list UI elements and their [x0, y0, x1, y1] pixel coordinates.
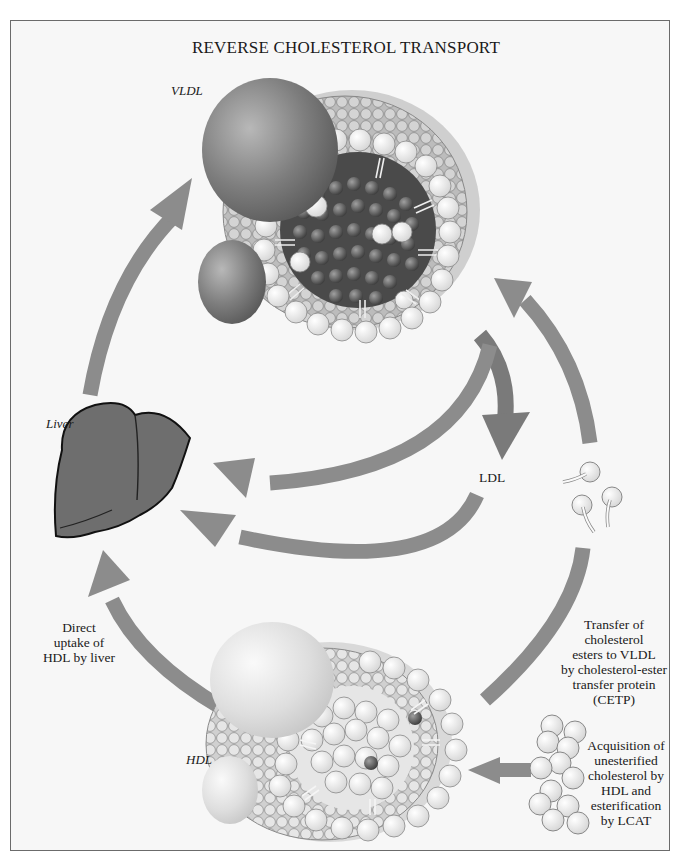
caption-cetp-transfer: Transfer of cholesterol esters to VLDL b… — [560, 617, 668, 707]
unesterified-cholesterol-cluster — [529, 715, 589, 834]
arrow-vldl-to-liver — [270, 345, 490, 483]
vldl-apoprotein-large — [202, 78, 338, 222]
caption-lcat-acquisition: Acquisition of unesterified cholesterol … — [585, 738, 667, 828]
vldl-apoprotein-small — [198, 240, 266, 324]
hdl-particle — [202, 622, 467, 842]
vldl-label: VLDL — [171, 83, 203, 99]
arrow-cetp-to-vldl — [525, 300, 590, 443]
hdl-cholesteryl-ester-dark — [364, 756, 378, 770]
arrowhead-liver-to-vldl — [150, 178, 192, 230]
arrow-liver-to-vldl — [90, 215, 175, 395]
liver-shape — [55, 403, 190, 537]
vldl-particle — [198, 78, 480, 343]
hdl-label: HDL — [186, 752, 212, 768]
liver-label: Liver — [46, 416, 73, 432]
arrow-hdl-to-liver — [112, 600, 222, 708]
arrow-lcat-to-hdl — [468, 757, 531, 784]
ldl-label: LDL — [479, 470, 505, 486]
caption-direct-uptake: Direct uptake of HDL by liver — [36, 620, 122, 665]
arrowhead-vldl-to-ldl — [482, 412, 530, 460]
arrow-ldl-to-liver — [240, 495, 477, 551]
arrowhead-hdl-to-liver — [88, 550, 130, 597]
cholesterol-ester-molecules — [563, 462, 622, 532]
diagram-artwork — [0, 0, 692, 865]
arrowhead-vldl-to-liver — [213, 458, 255, 498]
arrowhead-ldl-to-liver — [180, 510, 236, 547]
hdl-apoprotein-large — [210, 622, 334, 738]
